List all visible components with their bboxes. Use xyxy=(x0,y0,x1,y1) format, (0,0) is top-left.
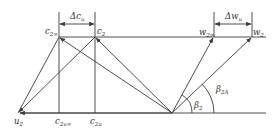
label-w2-inf: w2∞ xyxy=(199,27,214,38)
c2inf-vector xyxy=(60,38,172,113)
label-u2: u2 xyxy=(14,116,23,127)
u2-arrow-from-c2 xyxy=(19,37,95,112)
label-delta-wu: Δwu xyxy=(224,11,242,22)
label-c2u: c2u xyxy=(90,116,102,127)
label-w2: w2 xyxy=(253,27,264,38)
label-beta2A: β2A xyxy=(215,84,228,95)
label-c2-inf: c2∞ xyxy=(45,26,58,37)
label-c2: c2 xyxy=(97,26,106,37)
label-beta2: β2 xyxy=(193,100,203,111)
w2-vector xyxy=(172,38,251,113)
c2-vector xyxy=(96,38,172,113)
label-delta-cu: Δcu xyxy=(69,11,85,22)
beta2-arc xyxy=(182,95,192,113)
velocity-triangle-diagram: Δcu Δwu c2∞ c2 w2∞ w2 u2 c2u∞ c2u β2 β2A xyxy=(0,0,276,131)
beta2A-arc xyxy=(202,84,214,113)
w2inf-vector xyxy=(172,38,213,113)
label-c2u-inf: c2u∞ xyxy=(55,116,71,127)
u2-line-from-c2inf xyxy=(18,37,59,113)
